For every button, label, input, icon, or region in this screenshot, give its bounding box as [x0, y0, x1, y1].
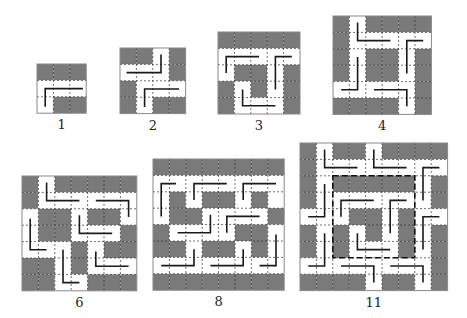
shaded-cell [120, 97, 136, 113]
shaded-cell [55, 209, 71, 225]
shaded-cell [300, 274, 316, 290]
shaded-cell [37, 64, 53, 80]
shaded-cell [366, 49, 382, 65]
shaded-cell [70, 64, 86, 80]
figure-label: 1 [42, 117, 82, 132]
shaded-cell [300, 176, 316, 192]
shaded-cell [349, 274, 365, 290]
shaded-cell [300, 241, 316, 257]
shaded-cell [71, 242, 87, 258]
shaded-cell [251, 241, 267, 257]
shaded-cell [366, 16, 382, 32]
shaded-cell [398, 209, 414, 225]
grid-diagram [120, 48, 186, 114]
shaded-cell [104, 242, 120, 258]
shaded-cell [22, 176, 38, 192]
shaded-cell [268, 208, 284, 224]
shaded-cell [284, 32, 300, 48]
shaded-cell [219, 274, 235, 290]
shaded-cell [366, 209, 382, 225]
shaded-cell [153, 97, 169, 113]
shaded-cell [333, 274, 349, 290]
shaded-cell [333, 225, 349, 241]
shaded-cell [235, 159, 251, 175]
shaded-cell [382, 274, 398, 290]
shaded-cell [234, 65, 250, 81]
shaded-cell [22, 192, 38, 208]
figure-label: 3 [239, 118, 279, 133]
shaded-cell [219, 241, 235, 257]
shaded-cell [169, 241, 185, 257]
shaded-cell [169, 274, 185, 290]
shaded-cell [169, 159, 185, 175]
shaded-cell [431, 192, 447, 208]
shaded-cell [120, 225, 136, 241]
shaded-cell [366, 98, 382, 114]
shaded-cell [398, 176, 414, 192]
shaded-cell [415, 49, 431, 65]
shaded-cell [251, 225, 267, 241]
shaded-cell [251, 159, 267, 175]
shaded-cell [431, 258, 447, 274]
shaded-cell [349, 143, 365, 159]
shaded-cell [284, 65, 300, 81]
shaded-cell [218, 98, 234, 114]
shaded-cell [415, 16, 431, 32]
shaded-cell [431, 274, 447, 290]
shaded-cell [169, 97, 185, 113]
shaded-cell [169, 192, 185, 208]
shaded-cell [71, 258, 87, 274]
shaded-cell [415, 98, 431, 114]
shaded-cell [333, 143, 349, 159]
shaded-cell [316, 274, 332, 290]
shaded-cell [251, 192, 267, 208]
shaded-cell [70, 97, 86, 113]
grid-diagram [300, 143, 448, 291]
shaded-cell [22, 274, 38, 290]
shaded-cell [88, 274, 104, 290]
shaded-cell [234, 32, 250, 48]
shaded-cell [202, 241, 218, 257]
shaded-cell [300, 225, 316, 241]
shaded-cell [186, 208, 202, 224]
shaded-cell [219, 192, 235, 208]
shaded-cell [349, 209, 365, 225]
grid-figure-6 [22, 176, 137, 291]
shaded-cell [382, 16, 398, 32]
shaded-cell [415, 65, 431, 81]
shaded-cell [251, 65, 267, 81]
shaded-cell [382, 98, 398, 114]
shaded-cell [153, 225, 169, 241]
shaded-cell [38, 258, 54, 274]
shaded-cell [202, 274, 218, 290]
shaded-cell [104, 176, 120, 192]
shaded-cell [120, 242, 136, 258]
shaded-cell [38, 209, 54, 225]
shaded-cell [186, 274, 202, 290]
shaded-cell [218, 32, 234, 48]
shaded-cell [333, 176, 349, 192]
shaded-cell [398, 241, 414, 257]
shaded-cell [399, 16, 415, 32]
shaded-cell [53, 97, 69, 113]
shaded-cell [398, 225, 414, 241]
grid-diagram [333, 16, 431, 114]
shaded-cell [120, 176, 136, 192]
figure-label: 4 [362, 118, 402, 133]
shaded-cell [415, 82, 431, 98]
shaded-cell [235, 274, 251, 290]
shaded-cell [300, 143, 316, 159]
shaded-cell [333, 32, 349, 48]
shaded-cell [104, 209, 120, 225]
shaded-cell [169, 208, 185, 224]
shaded-cell [120, 48, 136, 64]
shaded-cell [71, 176, 87, 192]
shaded-cell [382, 65, 398, 81]
shaded-cell [218, 81, 234, 97]
grid-figure-4 [333, 16, 431, 114]
shaded-cell [136, 48, 152, 64]
shaded-cell [169, 64, 185, 80]
shaded-cell [267, 32, 283, 48]
grid-diagram [22, 176, 137, 291]
shaded-cell [300, 159, 316, 175]
